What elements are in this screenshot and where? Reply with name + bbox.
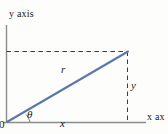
x-axis-label: x ax xyxy=(147,112,165,122)
radius-label: r xyxy=(61,64,65,75)
diagram-canvas xyxy=(0,0,168,134)
hypotenuse-line xyxy=(7,52,128,123)
origin-label: 0 xyxy=(0,119,5,130)
y-component-label: y xyxy=(131,80,136,91)
polar-coordinate-diagram: y axis x ax r θ x y 0 xyxy=(0,0,168,134)
y-axis-label: y axis xyxy=(9,9,34,19)
x-component-label: x xyxy=(60,118,65,129)
theta-angle-label: θ xyxy=(27,109,32,120)
